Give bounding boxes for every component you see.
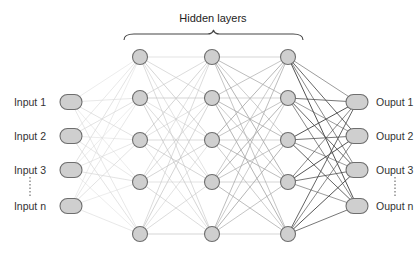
connection-line <box>288 140 357 170</box>
hidden-node <box>205 175 220 190</box>
hidden-node <box>133 133 148 148</box>
hidden-node <box>205 50 220 65</box>
output-label: Ouput 2 <box>376 130 414 142</box>
input-label: Input 2 <box>14 130 46 142</box>
input-node <box>60 199 82 214</box>
input-node <box>60 95 82 110</box>
output-node <box>346 129 368 144</box>
output-node <box>346 163 368 178</box>
nodes <box>60 50 368 242</box>
neural-network-diagram: Hidden layers Input 1Input 2Input 3Input… <box>0 0 420 258</box>
connection-line <box>288 136 357 234</box>
connection-line <box>71 57 140 136</box>
hidden-node <box>133 50 148 65</box>
hidden-node <box>133 175 148 190</box>
hidden-node <box>133 227 148 242</box>
hidden-node <box>133 91 148 106</box>
hidden-layers-brace <box>124 30 303 40</box>
output-node <box>346 95 368 110</box>
hidden-node <box>205 133 220 148</box>
labels: Input 1Input 2Input 3Input nOuput 1Ouput… <box>14 96 414 212</box>
input-node <box>60 129 82 144</box>
connection-line <box>71 140 140 170</box>
input-label: Input 3 <box>14 164 46 176</box>
hidden-node <box>205 227 220 242</box>
input-node <box>60 163 82 178</box>
hidden-node <box>281 227 296 242</box>
input-label: Input 1 <box>14 96 46 108</box>
output-label: Ouput 3 <box>376 164 414 176</box>
hidden-node <box>281 175 296 190</box>
hidden-node <box>205 91 220 106</box>
connection-line <box>71 136 140 234</box>
input-label: Input n <box>14 200 46 212</box>
hidden-layers-label: Hidden layers <box>179 12 247 24</box>
hidden-node <box>281 50 296 65</box>
output-label: Ouput n <box>376 200 414 212</box>
output-label: Ouput 1 <box>376 96 414 108</box>
connection-line <box>288 57 357 136</box>
hidden-node <box>281 133 296 148</box>
output-node <box>346 199 368 214</box>
hidden-node <box>281 91 296 106</box>
curly-brace <box>124 30 303 40</box>
